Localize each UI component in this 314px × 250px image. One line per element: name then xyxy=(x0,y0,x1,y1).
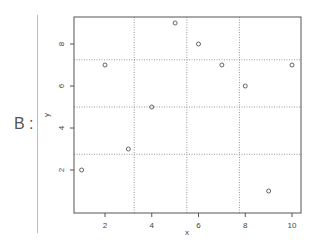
data-point xyxy=(126,147,130,151)
grid-lines xyxy=(74,17,301,213)
x-tick-label: 4 xyxy=(150,221,155,230)
x-tick-label: 8 xyxy=(243,221,248,230)
data-point xyxy=(80,168,84,172)
x-axis-title: x xyxy=(185,228,189,237)
x-axis: 246810 xyxy=(103,213,297,230)
y-tick-label: 2 xyxy=(57,167,66,172)
y-tick-label: 4 xyxy=(57,125,66,130)
data-point xyxy=(243,84,247,88)
scatter-chart: 246810 2468 x y xyxy=(0,0,314,250)
y-tick-label: 8 xyxy=(57,41,66,46)
y-axis-title: y xyxy=(42,113,51,117)
data-point xyxy=(290,63,294,67)
data-point xyxy=(220,63,224,67)
data-point xyxy=(173,21,177,25)
plot-area xyxy=(74,17,301,213)
data-point xyxy=(197,42,201,46)
x-tick-label: 2 xyxy=(103,221,108,230)
x-tick-label: 10 xyxy=(288,221,297,230)
y-axis: 2468 xyxy=(57,41,74,172)
x-tick-label: 6 xyxy=(196,221,201,230)
data-point xyxy=(103,63,107,67)
y-tick-label: 6 xyxy=(57,83,66,88)
data-point xyxy=(267,189,271,193)
